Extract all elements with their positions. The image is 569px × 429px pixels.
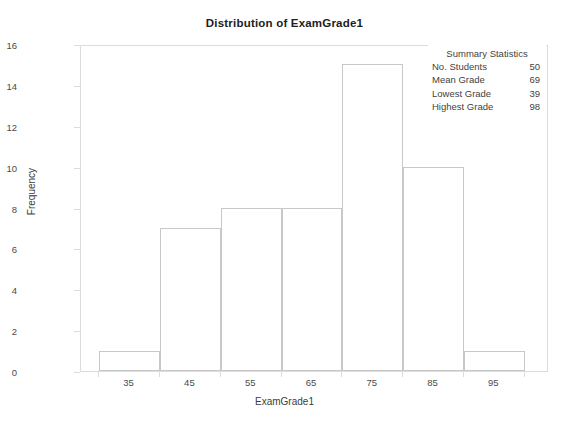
summary-statistic-value: 98 [529, 100, 542, 113]
y-axis-tick-label: 10 [0, 162, 17, 173]
x-axis-tick-mark [341, 372, 342, 377]
y-axis-tick-label: 4 [0, 285, 17, 296]
summary-statistics-title: Summary Statistics [432, 47, 542, 60]
x-axis-tick-label: 95 [473, 377, 513, 388]
y-axis-tick-mark [74, 168, 80, 169]
y-axis-tick-mark [74, 290, 80, 291]
summary-statistic-value: 69 [529, 73, 542, 86]
summary-statistic-label: No. Students [432, 60, 487, 73]
histogram-bar [464, 351, 525, 371]
x-axis-tick-label: 75 [352, 377, 392, 388]
x-axis-title: ExamGrade1 [0, 396, 569, 407]
summary-statistic-row: Lowest Grade39 [432, 87, 542, 100]
x-axis-tick-mark [524, 372, 525, 377]
y-axis-tick-label: 12 [0, 121, 17, 132]
x-axis-tick-mark [220, 372, 221, 377]
histogram-chart: Distribution of ExamGrade1 0246810121416… [0, 0, 569, 429]
summary-statistic-value: 39 [529, 87, 542, 100]
y-axis-tick-label: 2 [0, 326, 17, 337]
summary-statistics-rows: No. Students50Mean Grade69Lowest Grade39… [432, 60, 542, 113]
x-axis-tick-label: 45 [169, 377, 209, 388]
x-axis-tick-label: 85 [413, 377, 453, 388]
chart-title: Distribution of ExamGrade1 [0, 17, 569, 29]
x-axis-tick-mark [281, 372, 282, 377]
x-axis-tick-mark [402, 372, 403, 377]
y-axis-tick-label: 16 [0, 40, 17, 51]
y-axis-title: Frequency [26, 152, 37, 232]
histogram-bar [342, 64, 403, 371]
x-axis-tick-label: 55 [230, 377, 270, 388]
histogram-bar [403, 167, 464, 371]
x-axis-tick-mark [98, 372, 99, 377]
y-axis-tick-mark [74, 249, 80, 250]
y-axis-tick-mark [74, 45, 80, 46]
summary-statistics-panel: Summary Statistics No. Students50Mean Gr… [428, 44, 546, 117]
summary-statistic-row: No. Students50 [432, 60, 542, 73]
y-axis-tick-mark [74, 331, 80, 332]
y-axis-tick-label: 8 [0, 203, 17, 214]
summary-statistic-row: Highest Grade98 [432, 100, 542, 113]
histogram-bar [282, 208, 343, 372]
y-axis-tick-label: 6 [0, 244, 17, 255]
y-axis-tick-label: 0 [0, 367, 17, 378]
x-axis-tick-mark [463, 372, 464, 377]
histogram-bar [160, 228, 221, 371]
y-axis-tick-mark [74, 127, 80, 128]
y-axis-tick-mark [74, 372, 80, 373]
y-axis-tick-label: 14 [0, 80, 17, 91]
histogram-bar [99, 351, 160, 371]
y-axis-tick-mark [74, 209, 80, 210]
x-axis-tick-label: 65 [291, 377, 331, 388]
x-axis-tick-mark [159, 372, 160, 377]
histogram-bar [221, 208, 282, 372]
summary-statistic-label: Mean Grade [432, 73, 485, 86]
summary-statistic-row: Mean Grade69 [432, 73, 542, 86]
y-axis-tick-mark [74, 86, 80, 87]
x-axis-tick-label: 35 [109, 377, 149, 388]
summary-statistic-value: 50 [529, 60, 542, 73]
summary-statistic-label: Highest Grade [432, 100, 493, 113]
summary-statistic-label: Lowest Grade [432, 87, 491, 100]
